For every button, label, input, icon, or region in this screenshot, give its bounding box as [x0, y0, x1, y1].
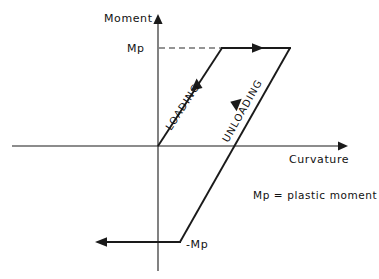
unloading-branch-line	[180, 48, 290, 242]
moment-curvature-figure: Moment Curvature Mp -Mp LOADING UNLOADIN…	[0, 0, 379, 279]
plastic-moment-note: Mp = plastic moment	[253, 189, 377, 201]
mp-negative-tick-label: -Mp	[186, 238, 208, 251]
direction-arrows-group	[95, 43, 264, 247]
y-axis-label: Moment	[104, 12, 153, 25]
x-axis-arrow-icon	[338, 141, 348, 150]
figure-canvas: Moment Curvature Mp -Mp LOADING UNLOADIN…	[0, 0, 379, 279]
positive-plateau-arrow-icon	[252, 43, 264, 53]
negative-plateau-arrow-icon	[95, 237, 107, 247]
x-axis-label: Curvature	[289, 153, 349, 166]
mp-positive-tick-label: Mp	[127, 42, 145, 55]
hysteresis-curve-group	[101, 48, 291, 242]
y-axis-arrow-icon	[153, 14, 162, 24]
loading-branch-label: LOADING	[163, 81, 201, 132]
axes-group	[12, 14, 348, 271]
